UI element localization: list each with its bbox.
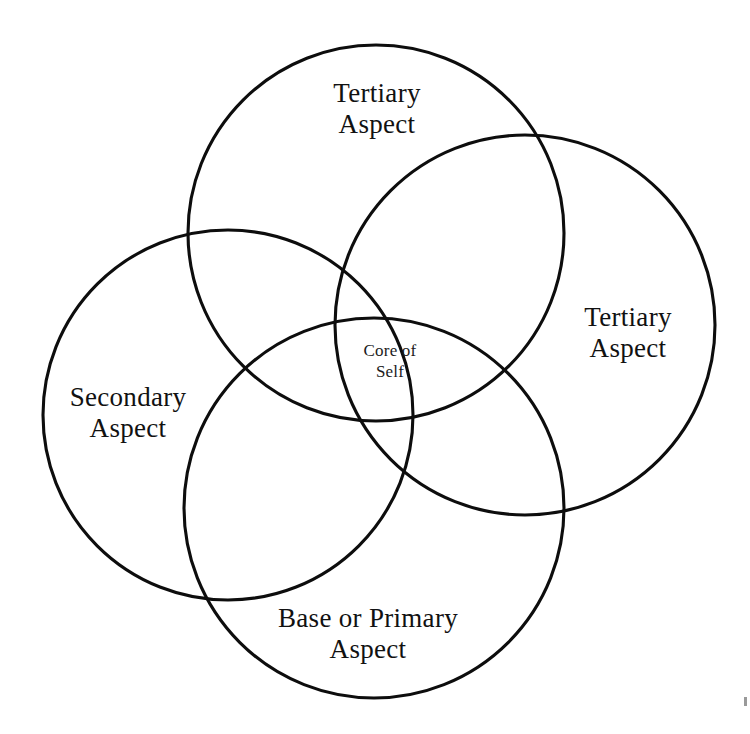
- label-tertiary-top: Tertiary Aspect: [277, 78, 477, 141]
- label-tertiary-right-line2: Aspect: [533, 333, 723, 364]
- label-secondary-left-line1: Secondary: [28, 382, 228, 413]
- label-tertiary-top-line2: Aspect: [277, 109, 477, 140]
- label-core-line2: Self: [330, 361, 450, 382]
- label-secondary-left-line2: Aspect: [28, 413, 228, 444]
- label-core-of-self: Core of Self: [330, 340, 450, 382]
- label-base-primary-bottom: Base or Primary Aspect: [238, 603, 498, 666]
- label-tertiary-right-line1: Tertiary: [533, 302, 723, 333]
- label-base-primary-line1: Base or Primary: [238, 603, 498, 634]
- label-core-line1: Core of: [330, 340, 450, 361]
- label-tertiary-right: Tertiary Aspect: [533, 302, 723, 365]
- label-secondary-left: Secondary Aspect: [28, 382, 228, 445]
- scan-edge-speck: [744, 697, 747, 706]
- venn-diagram-figure: Tertiary Aspect Tertiary Aspect Secondar…: [0, 0, 750, 734]
- label-base-primary-line2: Aspect: [238, 634, 498, 665]
- label-tertiary-top-line1: Tertiary: [277, 78, 477, 109]
